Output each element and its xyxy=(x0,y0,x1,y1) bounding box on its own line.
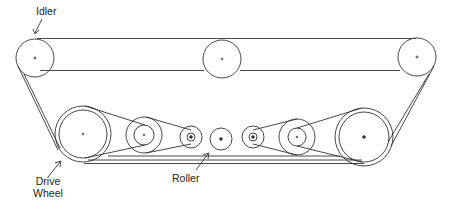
label-arrows xyxy=(33,19,209,177)
outer-track-belt xyxy=(18,39,434,164)
idler-label: Idler xyxy=(36,5,56,17)
idler-right xyxy=(398,38,436,76)
drive-wheel-label-line1: Drive xyxy=(30,175,66,187)
pulley-left-small xyxy=(180,126,202,148)
inner-drive-belts xyxy=(85,106,362,162)
roller-label: Roller xyxy=(172,172,199,184)
drive-wheel xyxy=(55,106,111,162)
roller xyxy=(210,128,232,150)
belt-drive-diagram xyxy=(0,0,455,203)
drive-wheel-label: Drive Wheel xyxy=(30,175,66,199)
idler-middle xyxy=(203,40,241,78)
drive-wheel-label-line2: Wheel xyxy=(30,187,66,199)
idler-left xyxy=(16,39,54,77)
pulley-right-small xyxy=(242,126,264,148)
